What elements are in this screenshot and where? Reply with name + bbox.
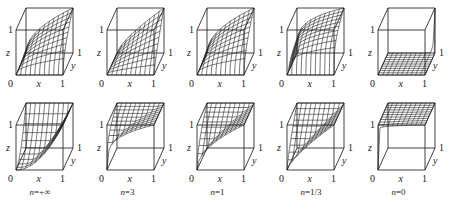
x-tick-1-label: 1 <box>151 78 156 89</box>
plot-top-row-n-1: 1z0x11y <box>186 8 263 89</box>
plot-bottom-row-n-__: 1z0x11yn=+∞ <box>5 103 82 197</box>
y-axis-label: y <box>70 60 76 71</box>
z-axis-label: z <box>96 142 101 153</box>
x-axis-label: x <box>307 173 313 184</box>
y-tick-1-label: 1 <box>168 142 173 153</box>
n-caption: n=1 <box>211 187 225 197</box>
x-tick-1-label: 1 <box>241 78 246 89</box>
unit-cube-frame <box>378 103 435 170</box>
x-tick-1-label: 1 <box>60 173 65 184</box>
x-axis-label: x <box>36 173 42 184</box>
origin-label: 0 <box>99 173 104 184</box>
x-axis-label: x <box>398 78 404 89</box>
y-tick-1-label: 1 <box>168 47 173 58</box>
z-axis-label: z <box>5 47 10 58</box>
plot-top-row-n-1_3: 1z0x11y <box>276 8 353 89</box>
z-axis-label: z <box>276 142 281 153</box>
y-tick-1-label: 1 <box>348 47 353 58</box>
origin-label: 0 <box>99 78 104 89</box>
plot-bottom-row-n-1: 1z0x11yn=1 <box>186 103 263 197</box>
x-tick-1-label: 1 <box>151 173 156 184</box>
origin-label: 0 <box>370 78 375 89</box>
z-tick-1-label: 1 <box>370 119 375 130</box>
x-axis-label: x <box>398 173 404 184</box>
surface-plot-grid: 1z0x11y1z0x11y1z0x11y1z0x11y1z0x11y1z0x1… <box>0 0 453 209</box>
n-caption: n=+∞ <box>30 187 51 197</box>
x-tick-1-label: 1 <box>331 78 336 89</box>
x-tick-1-label: 1 <box>60 78 65 89</box>
origin-label: 0 <box>189 173 194 184</box>
x-axis-label: x <box>307 78 313 89</box>
plot-bottom-row-n-1_3: 1z0x11yn=1/3 <box>276 103 353 197</box>
y-tick-1-label: 1 <box>439 47 444 58</box>
x-axis-label: x <box>217 173 223 184</box>
z-tick-1-label: 1 <box>189 119 194 130</box>
z-tick-1-label: 1 <box>8 24 13 35</box>
y-axis-label: y <box>341 155 347 166</box>
y-axis-label: y <box>251 60 257 71</box>
plot-top-row-n-3: 1z0x11y <box>96 8 173 89</box>
y-axis-label: y <box>251 155 257 166</box>
z-axis-label: z <box>5 142 10 153</box>
surface-mesh <box>16 103 73 170</box>
x-axis-label: x <box>127 78 133 89</box>
origin-label: 0 <box>8 78 13 89</box>
z-axis-label: z <box>367 142 372 153</box>
x-tick-1-label: 1 <box>241 173 246 184</box>
y-axis-label: y <box>70 155 76 166</box>
y-tick-1-label: 1 <box>77 47 82 58</box>
z-tick-1-label: 1 <box>8 119 13 130</box>
surface-mesh <box>16 8 73 75</box>
z-axis-label: z <box>186 142 191 153</box>
z-tick-1-label: 1 <box>279 119 284 130</box>
surface-mesh <box>378 103 435 170</box>
z-axis-label: z <box>276 47 281 58</box>
surface-mesh <box>107 103 164 170</box>
plot-top-row-n-__: 1z0x11y <box>5 8 82 89</box>
y-tick-1-label: 1 <box>258 47 263 58</box>
x-tick-1-label: 1 <box>422 78 427 89</box>
z-tick-1-label: 1 <box>189 24 194 35</box>
y-axis-label: y <box>341 60 347 71</box>
y-axis-label: y <box>432 155 438 166</box>
z-axis-label: z <box>367 47 372 58</box>
origin-label: 0 <box>189 78 194 89</box>
x-axis-label: x <box>217 78 223 89</box>
unit-cube-frame <box>16 103 73 170</box>
y-tick-1-label: 1 <box>348 142 353 153</box>
surface-mesh <box>378 8 435 75</box>
y-axis-label: y <box>161 60 167 71</box>
unit-cube-frame <box>378 8 435 75</box>
surface-mesh <box>287 8 344 75</box>
z-tick-1-label: 1 <box>99 24 104 35</box>
y-axis-label: y <box>161 155 167 166</box>
x-tick-1-label: 1 <box>331 173 336 184</box>
n-caption: n=0 <box>392 187 407 197</box>
surface-mesh <box>107 8 164 75</box>
surface-mesh <box>197 103 254 170</box>
surface-mesh <box>197 8 254 75</box>
x-axis-label: x <box>36 78 42 89</box>
origin-label: 0 <box>370 173 375 184</box>
origin-label: 0 <box>279 173 284 184</box>
x-tick-1-label: 1 <box>422 173 427 184</box>
origin-label: 0 <box>279 78 284 89</box>
origin-label: 0 <box>8 173 13 184</box>
plot-bottom-row-n-3: 1z0x11yn=3 <box>96 103 173 197</box>
z-tick-1-label: 1 <box>99 119 104 130</box>
y-tick-1-label: 1 <box>439 142 444 153</box>
plot-top-row-n-0: 1z0x11y <box>367 8 444 89</box>
z-axis-label: z <box>96 47 101 58</box>
surface-mesh <box>287 103 344 170</box>
unit-cube-frame <box>197 103 254 170</box>
z-tick-1-label: 1 <box>370 24 375 35</box>
z-tick-1-label: 1 <box>279 24 284 35</box>
n-caption: n=1/3 <box>301 187 323 197</box>
z-axis-label: z <box>186 47 191 58</box>
y-tick-1-label: 1 <box>258 142 263 153</box>
plot-bottom-row-n-0: 1z0x11yn=0 <box>367 103 444 197</box>
x-axis-label: x <box>127 173 133 184</box>
y-axis-label: y <box>432 60 438 71</box>
y-tick-1-label: 1 <box>77 142 82 153</box>
n-caption: n=3 <box>121 187 136 197</box>
